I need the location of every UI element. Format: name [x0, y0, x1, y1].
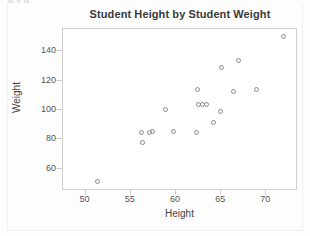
y-axis-tick-label: 140	[34, 45, 56, 55]
y-axis-tick-mark	[56, 138, 62, 139]
chart-title: Student Height by Student Weight	[62, 8, 298, 20]
y-axis: 6080100120140	[30, 0, 56, 236]
x-axis-tick-mark	[130, 190, 131, 195]
y-axis-tick-mark	[56, 80, 62, 81]
x-axis-title: Height	[62, 208, 297, 219]
y-axis-title: Weight	[11, 68, 22, 128]
plot-area-frame	[62, 28, 297, 190]
x-axis-tick-label: 55	[117, 194, 143, 204]
x-axis-tick-label: 60	[162, 194, 188, 204]
y-axis-tick-label: 100	[34, 104, 56, 114]
x-axis-tick-mark	[220, 190, 221, 195]
x-axis-tick-label: 70	[252, 194, 278, 204]
y-axis-tick-label: 60	[34, 163, 56, 173]
x-axis-tick-mark	[265, 190, 266, 195]
y-axis-tick-mark	[56, 50, 62, 51]
y-axis-tick-mark	[56, 109, 62, 110]
y-axis-tick-label: 120	[34, 75, 56, 85]
chart-figure: g y g Student Height by Student Weight 6…	[0, 0, 310, 236]
y-axis-tick-label: 80	[34, 133, 56, 143]
y-axis-tick-mark	[56, 168, 62, 169]
x-axis-tick-mark	[175, 190, 176, 195]
x-axis-tick-label: 65	[207, 194, 233, 204]
x-axis-tick-label: 50	[72, 194, 98, 204]
x-axis-tick-mark	[85, 190, 86, 195]
